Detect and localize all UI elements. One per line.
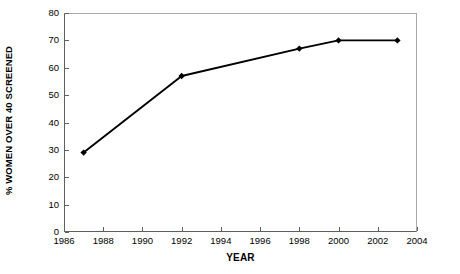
line-chart: % WOMEN OVER 40 SCREENED 010203040506070…	[0, 0, 460, 274]
x-tick-mark	[182, 227, 183, 231]
x-tick-label: 1998	[279, 236, 319, 246]
x-tick-label: 1994	[201, 236, 241, 246]
data-point-marker	[296, 45, 302, 51]
x-axis-title: YEAR	[64, 252, 417, 263]
chart-title-remnant	[40, 0, 340, 2]
y-tick-label: 20	[31, 172, 59, 182]
y-axis-title-label: % WOMEN OVER 40 SCREENED	[4, 45, 15, 194]
x-tick-mark	[142, 227, 143, 231]
y-tick-mark	[65, 40, 69, 41]
plot-series-layer	[64, 13, 417, 232]
y-tick-label: 50	[31, 90, 59, 100]
y-tick-label: 70	[31, 35, 59, 45]
data-point-marker	[335, 37, 341, 43]
y-axis-title: % WOMEN OVER 40 SCREENED	[0, 0, 18, 240]
x-tick-mark	[299, 227, 300, 231]
y-tick-label: 80	[31, 8, 59, 18]
x-tick-mark	[339, 227, 340, 231]
x-tick-mark	[378, 227, 379, 231]
series-line	[84, 40, 398, 152]
y-tick-label: 40	[31, 118, 59, 128]
y-tick-mark	[65, 95, 69, 96]
x-tick-label: 2000	[319, 236, 359, 246]
y-tick-label: 60	[31, 63, 59, 73]
x-tick-mark	[417, 227, 418, 231]
x-tick-label: 2002	[358, 236, 398, 246]
y-tick-mark	[65, 13, 69, 14]
y-tick-mark	[65, 150, 69, 151]
x-tick-label: 2004	[397, 236, 437, 246]
x-tick-mark	[221, 227, 222, 231]
x-tick-mark	[64, 227, 65, 231]
x-tick-label: 1986	[44, 236, 84, 246]
x-tick-label: 1990	[122, 236, 162, 246]
y-tick-mark	[65, 232, 69, 233]
y-tick-mark	[65, 68, 69, 69]
x-tick-label: 1992	[162, 236, 202, 246]
y-tick-label: 30	[31, 145, 59, 155]
y-tick-mark	[65, 123, 69, 124]
y-tick-label: 10	[31, 200, 59, 210]
x-tick-label: 1996	[240, 236, 280, 246]
y-tick-mark	[65, 177, 69, 178]
x-tick-mark	[103, 227, 104, 231]
x-tick-mark	[260, 227, 261, 231]
y-tick-mark	[65, 205, 69, 206]
data-point-marker	[394, 37, 400, 43]
x-tick-label: 1988	[83, 236, 123, 246]
